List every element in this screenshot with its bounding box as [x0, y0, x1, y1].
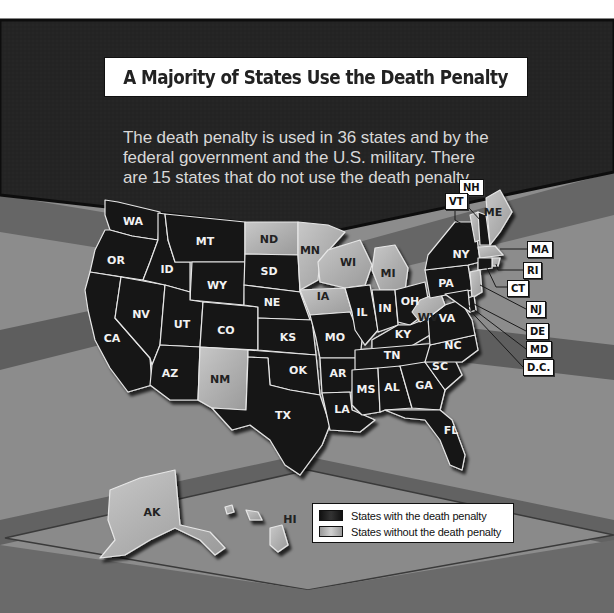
death-penalty-infographic: WA OR CA NV ID MT WY UT CO AZ NM ND SD N… [0, 0, 614, 613]
legend-item-without: States without the death penalty [319, 524, 507, 539]
callout-nj: NJ [526, 301, 546, 318]
title-box: A Majority of States Use the Death Penal… [104, 57, 528, 97]
label-ut: UT [174, 318, 191, 331]
label-ny: NY [452, 248, 470, 261]
label-wa: WA [123, 215, 144, 228]
callout-ri: RI [523, 262, 542, 279]
label-ar: AR [330, 367, 348, 380]
label-va: VA [439, 312, 456, 325]
label-nc: NC [444, 339, 461, 352]
label-id: ID [160, 263, 173, 276]
label-mn: MN [300, 244, 320, 257]
top-margin [0, 0, 614, 20]
label-mi: MI [380, 267, 395, 280]
callout-ct: CT [507, 280, 529, 297]
label-nm: NM [210, 373, 230, 386]
legend-label: States without the death penalty [351, 526, 501, 538]
label-pa: PA [438, 277, 454, 290]
label-ca: CA [104, 332, 121, 345]
label-sc: SC [432, 360, 448, 373]
callout-ma: MA [527, 241, 553, 258]
state-ct[interactable] [478, 258, 492, 270]
label-wi: WI [340, 256, 356, 269]
subtitle-line: federal government and the U.S. military… [123, 148, 463, 168]
legend-swatch-light [319, 526, 343, 537]
subtitle-line: are 15 states that do not use the death … [123, 168, 463, 188]
label-il: IL [356, 306, 367, 319]
label-ky: KY [395, 328, 413, 341]
callout-md: MD [526, 341, 552, 358]
callout-de: DE [526, 323, 549, 340]
label-wv: WV [418, 311, 439, 324]
page-title: A Majority of States Use the Death Penal… [124, 66, 509, 89]
label-ms: MS [357, 383, 376, 396]
callout-vt: VT [445, 193, 468, 210]
legend-item-with: States with the death penalty [319, 508, 507, 523]
subtitle: The death penalty is used in 36 states a… [123, 128, 463, 188]
label-az: AZ [162, 367, 179, 380]
label-ks: KS [280, 331, 297, 344]
label-ok: OK [289, 364, 307, 377]
label-tx: TX [275, 409, 292, 422]
state-hi-islands[interactable] [225, 505, 234, 514]
label-mo: MO [325, 331, 345, 344]
legend: States with the death penalty States wit… [312, 503, 514, 543]
label-hi: HI [283, 513, 296, 526]
callout-dc: D.C. [523, 359, 554, 376]
legend-label: States with the death penalty [351, 510, 486, 522]
label-ia: IA [317, 290, 330, 303]
label-tn: TN [384, 349, 401, 362]
label-or: OR [107, 254, 125, 267]
label-nv: NV [132, 308, 150, 321]
label-co: CO [217, 324, 234, 337]
label-la: LA [334, 403, 350, 416]
label-fl: FL [444, 424, 459, 437]
label-in: IN [378, 302, 391, 315]
label-nd: ND [260, 233, 278, 246]
label-ga: GA [415, 379, 433, 392]
label-me: ME [484, 206, 502, 219]
label-wy: WY [207, 279, 228, 292]
label-mt: MT [196, 235, 215, 248]
legend-swatch-dark [319, 510, 343, 521]
subtitle-line: The death penalty is used in 36 states a… [123, 128, 463, 148]
label-ne: NE [264, 296, 281, 309]
label-oh: OH [401, 295, 420, 308]
label-ak: AK [143, 506, 161, 519]
label-al: AL [384, 381, 400, 394]
label-sd: SD [260, 265, 277, 278]
